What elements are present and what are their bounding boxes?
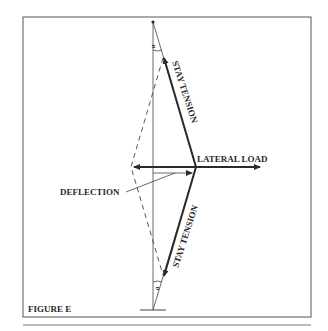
lower-angle-arc <box>153 281 162 282</box>
deflection-label: DEFLECTION <box>60 187 120 197</box>
upper-angle-label: a <box>149 44 157 48</box>
figure-caption: FIGURE E <box>28 304 71 314</box>
figure-e-diagram: LATERAL LOAD DEFLECTION FIGURE E STAY TE… <box>0 0 328 331</box>
lower-angle-label: a <box>153 286 161 290</box>
upper-angle-arc <box>153 50 162 51</box>
deflection-leader <box>126 173 175 192</box>
lateral-load-label: LATERAL LOAD <box>197 154 268 164</box>
